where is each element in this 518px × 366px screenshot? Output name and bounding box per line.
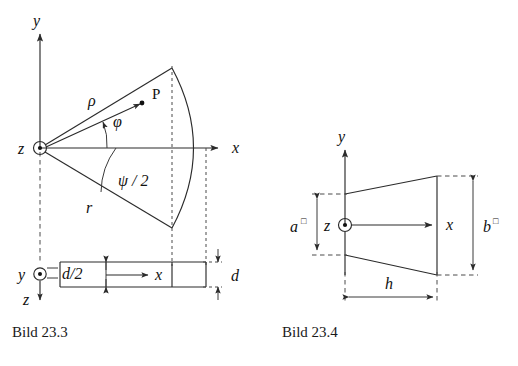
point-p-dot [140, 101, 145, 106]
trapezoid-bottom-edge [345, 255, 437, 275]
z-axis-label-left: z [17, 140, 25, 157]
a-label: a [290, 218, 298, 235]
bild-23-3-group: y x z P ρ [12, 12, 240, 340]
caption-bild-23-3: Bild 23.3 [12, 324, 68, 340]
rho-label: ρ [87, 92, 96, 110]
diagram-canvas: y x z P ρ [0, 0, 518, 366]
point-p-label: P [152, 86, 160, 102]
z-axis-label-side-view: z [22, 291, 30, 308]
y-axis-label-side-view: y [16, 266, 26, 284]
d-label: d [231, 267, 240, 284]
origin-center-dot-right [343, 223, 347, 227]
x-axis-label-right: x [445, 216, 453, 233]
psi-half-angle-arc [101, 148, 116, 192]
sector-lower-edge-radius-r [45, 152, 172, 228]
caption-bild-23-4: Bild 23.4 [282, 324, 338, 340]
b-label-superscript: □ [493, 216, 499, 226]
y-axis-label-right: y [336, 128, 346, 146]
phi-angle-arc [103, 122, 107, 148]
psi-half-label: ψ / 2 [118, 172, 148, 190]
y-axis-label-left: y [31, 12, 41, 30]
b-label: b [483, 218, 491, 235]
z-axis-label-right: z [323, 217, 331, 234]
h-label: h [385, 275, 393, 292]
x-axis-label-left: x [231, 139, 239, 156]
phi-label: φ [113, 113, 122, 131]
origin-center-dot-left [38, 146, 42, 150]
rho-vector-line [46, 104, 140, 147]
bild-23-4-group: y z x a □ [282, 128, 499, 340]
sector-upper-edge [45, 68, 172, 145]
origin-center-dot-side-view [38, 272, 42, 276]
x-axis-label-side-view: x [154, 266, 162, 283]
trapezoid-top-edge [345, 176, 437, 194]
a-label-superscript: □ [301, 216, 307, 226]
d-half-label: d/2 [62, 265, 82, 282]
r-label: r [86, 199, 93, 216]
figure-sheet: y x z P ρ [0, 0, 518, 366]
